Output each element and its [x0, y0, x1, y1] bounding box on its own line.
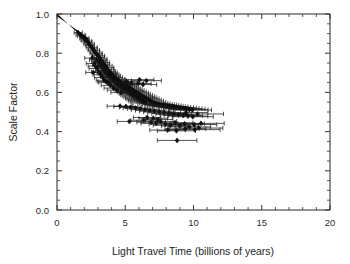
y-axis-title: Scale Factor	[7, 82, 19, 141]
y-tick-label: 0.4	[36, 126, 49, 137]
y-tick-label: 0.8	[36, 48, 49, 59]
scatter-plot: 051015200.00.20.40.60.81.0 Light Travel …	[0, 0, 350, 264]
x-tick-label: 5	[123, 217, 128, 228]
x-axis-title: Light Travel Time (billions of years)	[112, 245, 274, 257]
x-tick-label: 15	[256, 217, 267, 228]
x-tick-label: 20	[325, 217, 336, 228]
y-tick-label: 0.0	[36, 205, 49, 216]
x-tick-label: 0	[54, 217, 59, 228]
y-tick-label: 0.6	[36, 87, 49, 98]
x-tick-label: 10	[188, 217, 199, 228]
chart-figure: 051015200.00.20.40.60.81.0 Light Travel …	[0, 0, 350, 264]
plot-background	[0, 0, 350, 264]
y-tick-label: 1.0	[36, 9, 49, 20]
y-tick-label: 0.2	[36, 165, 49, 176]
